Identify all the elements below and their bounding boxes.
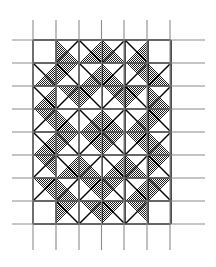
quilt-pattern-canvas xyxy=(0,0,216,267)
quilt-pattern-figure xyxy=(0,0,216,267)
